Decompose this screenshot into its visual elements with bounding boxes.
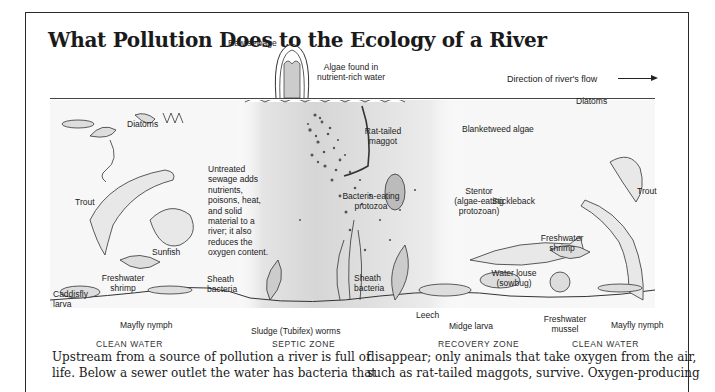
flow-direction-label: Direction of river's flow (507, 74, 597, 84)
label-untreated-sewage: Untreated sewage adds nutrients, poisons… (208, 164, 268, 258)
label-diatoms-right: Diatoms (576, 96, 607, 106)
label-stickleback: Stickleback (492, 196, 535, 206)
zone-label-clean-water-upstream: CLEAN WATER (96, 339, 163, 349)
label-sludge-worms: Sludge (Tubifex) worms (251, 326, 340, 336)
label-leech: Leech (416, 310, 439, 320)
label-rat-tailed-maggot: Rat-tailed maggot (358, 126, 408, 146)
label-sheath-bacteria-right: Sheath bacteria (354, 273, 384, 293)
label-algae-nutrient: Algae found in nutrient-rich water (311, 62, 391, 82)
flow-arrow-icon (618, 78, 656, 79)
label-sheath-bacteria-left: Sheath bacteria (207, 274, 237, 294)
label-diatoms-left: Diatoms (127, 119, 158, 129)
label-mayfly-nymph-right: Mayfly nymph (611, 320, 663, 330)
zone-label-recovery: RECOVERY ZONE (438, 339, 519, 349)
label-freshwater-shrimp-left: Freshwater shrimp (98, 273, 148, 293)
label-raw-sewage: Raw sewage (228, 38, 277, 48)
sewage-outfall-icon (272, 40, 312, 102)
zone-label-septic: SEPTIC ZONE (272, 339, 335, 349)
label-caddisfly-larva: Caddisfly larva (53, 289, 88, 309)
label-water-louse: Water louse (sowbug) (484, 268, 544, 288)
label-bacteria-eating-protozoa: Bacteria-eating protozoa (336, 191, 406, 211)
water-surface-line (50, 98, 655, 99)
label-trout-right: Trout (637, 186, 657, 196)
label-blanketweed-algae: Blanketweed algae (462, 124, 534, 134)
label-freshwater-shrimp-right: Freshwater shrimp (537, 233, 587, 253)
zone-label-clean-water-downstream: CLEAN WATER (572, 339, 639, 349)
body-text-right-column: disappear; only animals that take oxygen… (367, 349, 700, 381)
label-freshwater-mussel: Freshwater mussel (540, 314, 590, 334)
body-text-left-column: Upstream from a source of pollution a ri… (52, 349, 376, 381)
label-sunfish: Sunfish (152, 247, 180, 257)
label-mayfly-nymph-left: Mayfly nymph (120, 320, 172, 330)
label-trout-left: Trout (75, 197, 95, 207)
label-midge-larva: Midge larva (449, 321, 493, 331)
